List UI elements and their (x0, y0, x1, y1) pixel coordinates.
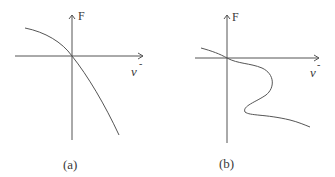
panel-a-y-axis-label: F (78, 10, 85, 22)
panel-a (15, 15, 143, 140)
panel-b (195, 15, 319, 143)
panel-b-caption: (b) (219, 157, 234, 170)
panel-b-y-axis-label: F (232, 11, 239, 23)
panel-a-x-axis-label: v (131, 65, 137, 78)
panel-b-x-axis-superscript: - (317, 60, 320, 70)
diagram-canvas (0, 0, 335, 177)
panel-a-x-axis-superscript: - (139, 59, 142, 69)
panel-b-curve (201, 48, 310, 127)
panel-a-caption: (a) (63, 158, 77, 171)
panel-b-x-axis-label: v (310, 66, 316, 79)
